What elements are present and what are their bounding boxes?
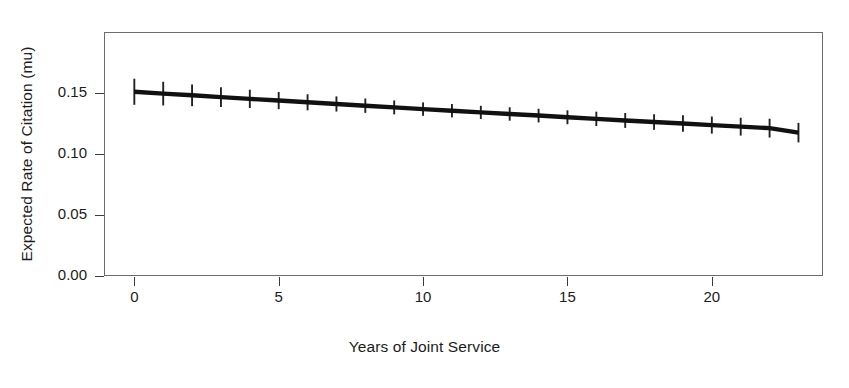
expected-rate-line <box>134 92 798 133</box>
data-series-svg <box>104 32 823 276</box>
plot-area <box>104 32 823 276</box>
x-tick-label: 10 <box>393 288 453 305</box>
y-tick-label: 0.00 <box>58 266 87 283</box>
x-tick-mark <box>712 277 713 286</box>
x-tick-label: 5 <box>249 288 309 305</box>
citation-rate-chart: Expected Rate of Citation (mu) Years of … <box>0 0 849 388</box>
x-tick-mark <box>279 277 280 286</box>
x-tick-mark <box>567 277 568 286</box>
x-tick-mark <box>423 277 424 286</box>
y-tick-mark <box>95 154 104 155</box>
x-tick-label: 20 <box>682 288 742 305</box>
x-axis-title: Years of Joint Service <box>0 338 849 356</box>
y-axis-title: Expected Rate of Citation (mu) <box>18 14 36 294</box>
y-tick-mark <box>95 215 104 216</box>
x-tick-label: 15 <box>537 288 597 305</box>
y-tick-label: 0.10 <box>58 144 87 161</box>
x-tick-label: 0 <box>104 288 164 305</box>
y-tick-label: 0.15 <box>58 83 87 100</box>
y-tick-label: 0.05 <box>58 205 87 222</box>
y-tick-mark <box>95 276 104 277</box>
y-tick-mark <box>95 93 104 94</box>
x-tick-mark <box>134 277 135 286</box>
